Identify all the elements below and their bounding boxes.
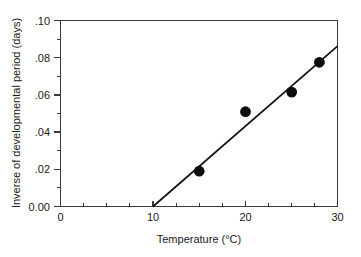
x-tick-label: 20	[239, 211, 251, 223]
x-tick-label: 10	[147, 211, 159, 223]
data-point	[314, 57, 325, 68]
y-tick-label: 0.00	[29, 201, 50, 213]
y-tick-label: .10	[35, 15, 50, 27]
y-tick-label: .02	[35, 163, 50, 175]
y-axis-title: Inverse of developmental period (days)	[10, 18, 22, 208]
x-tick-label: 30	[331, 211, 343, 223]
x-tick-label: 0	[57, 211, 63, 223]
y-tick-label: .08	[35, 52, 50, 64]
x-axis-tick-labels: 0 10 20 30	[57, 211, 343, 223]
data-point	[286, 87, 297, 98]
chart-figure: 0 10 20 30 .10 .08 .06 .04 .02 0.00 Temp…	[0, 0, 361, 257]
data-point	[240, 106, 251, 117]
y-tick-label: .06	[35, 89, 50, 101]
x-axis-title: Temperature (°C)	[157, 233, 241, 245]
y-axis-tick-labels: .10 .08 .06 .04 .02 0.00	[29, 15, 50, 213]
regression-line	[153, 46, 338, 206]
plot-frame	[61, 21, 338, 207]
data-point	[194, 166, 205, 177]
y-tick-label: .04	[35, 126, 50, 138]
scatter-plot: 0 10 20 30 .10 .08 .06 .04 .02 0.00 Temp…	[0, 0, 361, 257]
